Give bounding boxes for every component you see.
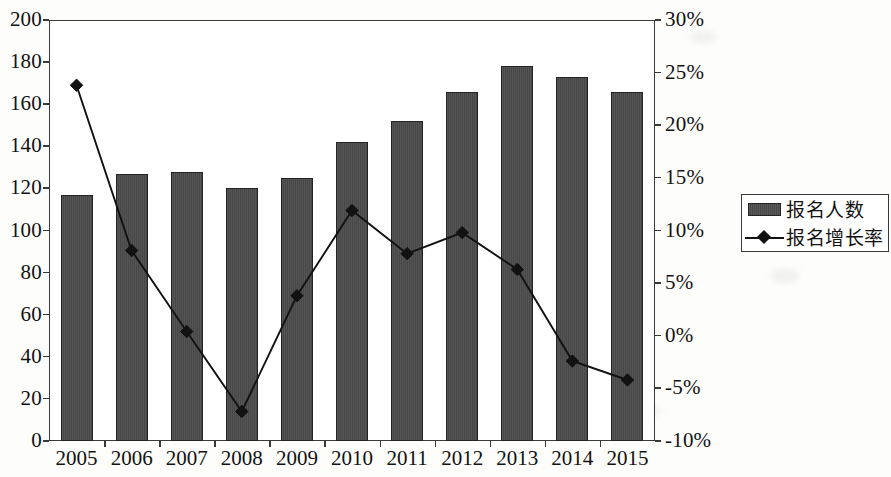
- left-axis-tick: [43, 440, 49, 442]
- left-axis-tick: [43, 61, 49, 63]
- left-axis-tick-label: 120: [10, 177, 42, 198]
- left-axis-tick: [43, 187, 49, 189]
- right-axis-tick-label: 20%: [665, 114, 704, 135]
- right-axis-tick: [655, 282, 661, 284]
- right-axis-tick: [655, 19, 661, 21]
- left-axis: 020406080100120140160180200: [0, 0, 42, 477]
- left-axis-tick-label: 180: [10, 51, 42, 72]
- x-axis-tick: [380, 441, 382, 447]
- left-axis-tick: [43, 103, 49, 105]
- bar: [281, 178, 313, 441]
- right-axis-tick: [655, 124, 661, 126]
- right-axis-tick-label: -10%: [665, 430, 711, 451]
- x-axis-tick: [600, 441, 602, 447]
- right-axis-tick-label: 0%: [665, 325, 693, 346]
- bar: [611, 92, 643, 441]
- right-axis-tick-label: 30%: [665, 9, 704, 30]
- left-axis-tick: [43, 398, 49, 400]
- right-axis-tick: [655, 335, 661, 337]
- x-axis-tick: [324, 441, 326, 447]
- right-axis-tick: [655, 440, 661, 442]
- left-axis-tick: [43, 145, 49, 147]
- legend-bar-swatch-icon: [742, 195, 786, 224]
- right-axis-tick-label: 15%: [665, 167, 704, 188]
- x-axis-tick: [214, 441, 216, 447]
- legend: 报名人数 报名增长率: [741, 194, 889, 252]
- left-axis-tick-label: 60: [21, 304, 42, 325]
- bar: [61, 195, 93, 441]
- legend-entry-registrations: 报名人数: [742, 195, 890, 224]
- right-axis-tick: [655, 230, 661, 232]
- right-axis-tick-label: 25%: [665, 62, 704, 83]
- left-axis-tick-label: 200: [10, 9, 42, 30]
- left-axis-tick: [43, 314, 49, 316]
- left-axis-tick: [43, 19, 49, 21]
- bar: [556, 77, 588, 441]
- left-axis-tick-label: 160: [10, 93, 42, 114]
- bar: [336, 142, 368, 441]
- left-axis-tick: [43, 272, 49, 274]
- right-axis-tick: [655, 387, 661, 389]
- bar: [116, 174, 148, 441]
- growth-chart: 020406080100120140160180200 -10%-5%0%5%1…: [0, 0, 891, 477]
- left-axis-tick-label: 40: [21, 346, 42, 367]
- x-axis-tick: [490, 441, 492, 447]
- x-axis-tick: [104, 441, 106, 447]
- left-axis-tick-label: 80: [21, 262, 42, 283]
- x-axis-tick: [545, 441, 547, 447]
- x-axis-tick-label: 2015: [587, 446, 667, 470]
- legend-label-growth-rate: 报名增长率: [786, 227, 884, 249]
- bar: [171, 172, 203, 441]
- legend-entry-growth-rate: 报名增长率: [742, 223, 890, 252]
- x-axis-tick: [269, 441, 271, 447]
- right-axis-tick-label: 5%: [665, 272, 693, 293]
- bar: [391, 121, 423, 441]
- right-axis-tick: [655, 72, 661, 74]
- legend-line-diamond-icon: [742, 223, 786, 252]
- right-axis-tick-label: -5%: [665, 377, 701, 398]
- bar: [446, 92, 478, 441]
- left-axis-tick: [43, 230, 49, 232]
- x-axis-tick: [159, 441, 161, 447]
- legend-label-registrations: 报名人数: [786, 199, 864, 221]
- left-axis-tick-label: 20: [21, 388, 42, 409]
- bar: [226, 188, 258, 441]
- bar: [501, 66, 533, 441]
- left-axis-tick-label: 140: [10, 135, 42, 156]
- right-axis-tick: [655, 177, 661, 179]
- left-axis-tick-label: 100: [10, 220, 42, 241]
- x-axis-tick: [435, 441, 437, 447]
- left-axis-tick: [43, 356, 49, 358]
- right-axis-tick-label: 10%: [665, 220, 704, 241]
